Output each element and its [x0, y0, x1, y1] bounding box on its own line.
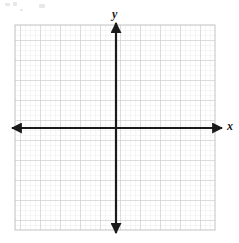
- coordinate-grid-figure: y x: [0, 0, 239, 243]
- y-axis-label: y: [112, 8, 117, 20]
- x-axis-label: x: [227, 120, 233, 132]
- coordinate-plane-svg: [0, 0, 239, 243]
